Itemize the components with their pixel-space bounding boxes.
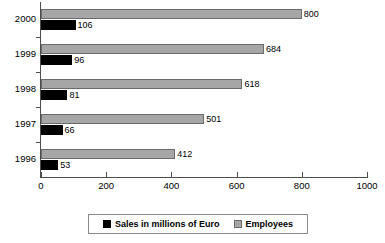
y-axis-tick-4	[36, 142, 41, 143]
bar-employees-1999[interactable]: 684	[41, 44, 264, 54]
y-axis-tick-3	[36, 107, 41, 108]
chart-legend: Sales in millions of Euro Employees	[88, 214, 308, 234]
bar-sales-1997[interactable]: 66	[41, 125, 63, 135]
plot-area: 80010668496618815016641253	[41, 2, 367, 177]
bar-employees-1998[interactable]: 618	[41, 79, 242, 89]
y-axis-label-1998: 1998	[2, 84, 36, 94]
bar-value-sales-2000: 106	[78, 20, 93, 30]
bar-employees-1997[interactable]: 501	[41, 114, 204, 124]
bar-value-employees-1996: 412	[177, 149, 192, 159]
y-axis-tick-2	[36, 72, 41, 73]
bar-sales-1996[interactable]: 53	[41, 160, 58, 170]
bar-value-sales-1998: 81	[69, 90, 79, 100]
x-axis-label-0: 0	[21, 180, 61, 191]
x-axis-tick-600	[237, 172, 238, 178]
y-axis-label-2000: 2000	[2, 14, 36, 24]
x-axis-tick-1000	[367, 172, 368, 178]
y-axis-tick-1	[36, 37, 41, 38]
bar-group-1996: 41253	[41, 145, 367, 180]
legend-label-employees: Employees	[246, 219, 294, 229]
x-axis-label-600: 600	[217, 180, 257, 191]
bar-employees-2000[interactable]: 800	[41, 9, 302, 19]
bar-group-1997: 50166	[41, 110, 367, 145]
bar-value-sales-1999: 96	[74, 55, 84, 65]
x-axis-tick-200	[106, 172, 107, 178]
bar-employees-1996[interactable]: 412	[41, 149, 175, 159]
x-axis-label-200: 200	[86, 180, 126, 191]
x-axis-tick-0	[41, 172, 42, 178]
y-axis-label-1996: 1996	[2, 154, 36, 164]
bar-group-1998: 61881	[41, 75, 367, 110]
x-axis-label-400: 400	[151, 180, 191, 191]
bar-chart: 80010668496618815016641253 2000199919981…	[0, 0, 385, 243]
bar-group-1999: 68496	[41, 40, 367, 75]
bar-value-employees-2000: 800	[304, 9, 319, 19]
legend-label-sales: Sales in millions of Euro	[115, 219, 220, 229]
bar-sales-2000[interactable]: 106	[41, 20, 76, 30]
bar-value-employees-1999: 684	[266, 44, 281, 54]
legend-swatch-employees-icon	[234, 220, 242, 228]
y-axis-label-1999: 1999	[2, 49, 36, 59]
y-axis-label-1997: 1997	[2, 119, 36, 129]
bar-value-employees-1998: 618	[244, 79, 259, 89]
legend-entry-employees[interactable]: Employees	[234, 219, 294, 229]
legend-swatch-sales-icon	[103, 220, 111, 228]
bar-sales-1999[interactable]: 96	[41, 55, 72, 65]
x-axis-label-1000: 1000	[347, 180, 385, 191]
x-axis-tick-400	[171, 172, 172, 178]
bar-value-sales-1997: 66	[65, 125, 75, 135]
bar-group-2000: 800106	[41, 5, 367, 40]
x-axis-tick-800	[302, 172, 303, 178]
bar-sales-1998[interactable]: 81	[41, 90, 67, 100]
x-axis-label-800: 800	[282, 180, 322, 191]
bar-value-sales-1996: 53	[60, 160, 70, 170]
bar-value-employees-1997: 501	[206, 114, 221, 124]
legend-entry-sales[interactable]: Sales in millions of Euro	[103, 219, 220, 229]
